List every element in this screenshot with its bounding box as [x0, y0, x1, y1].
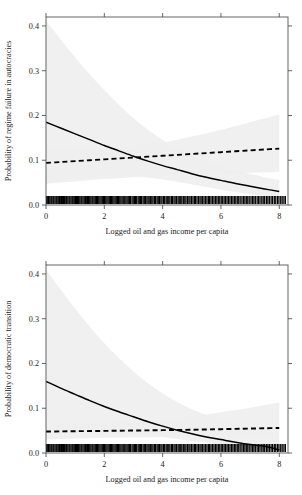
y-axis-title: Probability of regime failure in autocra… — [4, 41, 13, 182]
x-tick-label: 8 — [277, 212, 281, 221]
plot-area-bottom: 0.00.10.20.30.402468Logged oil and gas i… — [0, 248, 302, 495]
rug-plot — [47, 196, 286, 204]
y-axis-title: Probability of democratic transition — [4, 301, 13, 418]
y-tick-label: 0.1 — [29, 404, 39, 413]
confidence-bands — [46, 21, 279, 198]
y-tick-label: 0.0 — [29, 201, 39, 210]
y-tick-label: 0.3 — [29, 315, 39, 324]
x-tick-label: 0 — [44, 460, 48, 469]
x-tick-label: 4 — [161, 460, 165, 469]
y-tick-label: 0.0 — [29, 449, 39, 458]
y-tick-label: 0.2 — [29, 359, 39, 368]
x-axis-title: Logged oil and gas income per capita — [106, 227, 229, 236]
chart-panel-bottom: 0.00.10.20.30.402468Logged oil and gas i… — [0, 248, 302, 495]
x-tick-label: 6 — [219, 460, 223, 469]
plot-area-top: 0.00.10.20.30.402468Logged oil and gas i… — [0, 0, 302, 247]
x-tick-label: 4 — [161, 212, 165, 221]
y-tick-label: 0.1 — [29, 156, 39, 165]
y-tick-label: 0.3 — [29, 67, 39, 76]
x-tick-label: 8 — [277, 460, 281, 469]
chart-panel-top: 0.00.10.20.30.402468Logged oil and gas i… — [0, 0, 302, 247]
confidence-bands — [46, 269, 279, 451]
x-tick-label: 0 — [44, 212, 48, 221]
y-tick-label: 0.2 — [29, 111, 39, 120]
figure-container: 0.00.10.20.30.402468Logged oil and gas i… — [0, 0, 302, 495]
rug-plot — [47, 444, 286, 452]
y-tick-label: 0.4 — [29, 270, 39, 279]
y-tick-label: 0.4 — [29, 22, 39, 31]
x-tick-label: 6 — [219, 212, 223, 221]
x-tick-label: 2 — [102, 212, 106, 221]
x-axis-title: Logged oil and gas income per capita — [106, 475, 229, 484]
x-tick-label: 2 — [102, 460, 106, 469]
